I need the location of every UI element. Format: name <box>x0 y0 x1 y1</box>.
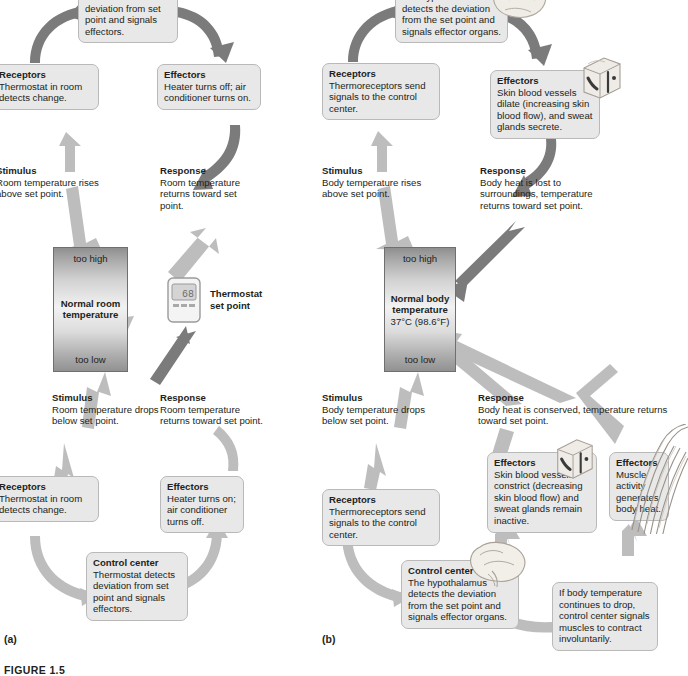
panel-a-upper-response-label: Response Room temperature returns toward… <box>160 165 250 211</box>
panel-a-normal-temp-line2: temperature <box>63 310 118 321</box>
panel-b-upper-stimulus-head: Stimulus <box>322 165 434 177</box>
panel-a-upper-response-body: Room temperature returns toward set poin… <box>160 177 250 212</box>
arrow-b-up-response-to-box <box>455 221 525 288</box>
panel-a-upper-cc-body: Thermostat detects deviation from set po… <box>85 0 171 37</box>
panel-a-lower-stimulus-body: Room temperature drops below set point. <box>52 404 162 427</box>
arrow-a-low-effectors-to-response-body <box>213 426 238 471</box>
figure-caption: FIGURE 1.5 <box>4 664 65 676</box>
panel-a-lower-effectors-head: Effectors <box>167 481 237 493</box>
panel-a-lower-stimulus-head: Stimulus <box>52 392 162 404</box>
panel-b-too-high-label: too high <box>385 253 455 265</box>
thermostat-set-point-label: Thermostat set point <box>210 288 262 311</box>
panel-b-lower-stimulus-body: Body temperature drops below set point. <box>322 404 437 427</box>
panel-b-lower-receptors-head: Receptors <box>329 494 433 506</box>
panel-a-upper-response-head: Response <box>160 165 250 177</box>
panel-b-normal-temp-line1: Normal body <box>391 292 450 303</box>
panel-b-setpoint-column: too high Normal body temperature 37°C (9… <box>384 247 456 372</box>
panel-b-upper-cc-body: The hypothalamus detects the deviation f… <box>402 0 501 37</box>
panel-a-too-low-label: too low <box>54 354 127 366</box>
panel-a-lower-receptors-head: Receptors <box>0 481 92 493</box>
skin-block-icon <box>552 436 596 482</box>
panel-b-upper-response-body: Body heat is lost to surroundings, tempe… <box>480 177 610 212</box>
thermostat-label-line1: Thermostat <box>210 288 262 299</box>
panel-a-upper-effectors-box: Effectors Heater turns off; air conditio… <box>157 64 261 110</box>
panel-b-normal-temp-label: Normal body temperature 37°C (98.6°F) <box>385 292 455 327</box>
arrow-a-up-response-to-box <box>168 228 219 282</box>
panel-b-normal-temp-line2: temperature <box>392 304 447 315</box>
panel-a-lower-receptors-body: Thermostat in room detects change. <box>0 493 92 516</box>
panel-a-letter: (a) <box>4 633 17 645</box>
panel-a-lower-control-center-box: Control center Thermostat detects deviat… <box>86 552 188 621</box>
panel-a-lower-cc-head: Control center <box>93 557 181 569</box>
panel-b-normal-temp-value: 37°C (98.6°F) <box>385 315 455 327</box>
panel-b-shivering-note-box: If body temperature continues to drop, c… <box>552 582 658 651</box>
panel-a-upper-effectors-body: Heater turns off; air conditioner turns … <box>164 81 254 104</box>
panel-b-upper-receptors-body: Thermoreceptors send signals to the cont… <box>329 80 433 115</box>
panel-a-upper-stimulus-head: Stimulus <box>0 165 106 177</box>
panel-b-upper-receptors-box: Receptors Thermoreceptors send signals t… <box>322 63 440 120</box>
muscle-fiber-icon <box>628 424 688 534</box>
panel-b-shivering-note-body: If body temperature continues to drop, c… <box>559 587 651 645</box>
panel-a-upper-stimulus-label: Stimulus Room temperature rises above se… <box>0 165 106 200</box>
panel-a-upper-receptors-box: Receptors Thermostat in room detects cha… <box>0 64 99 110</box>
panel-a-upper-control-center-box: Thermostat detects deviation from set po… <box>78 0 178 43</box>
panel-b-upper-response-head: Response <box>480 165 610 177</box>
panel-b-too-low-label: too low <box>385 354 455 366</box>
panel-a-lower-response-label: Response Room temperature returns toward… <box>160 392 272 427</box>
panel-b-lower-stimulus-label: Stimulus Body temperature drops below se… <box>322 392 437 427</box>
panel-a-upper-receptors-head: Receptors <box>0 69 92 81</box>
panel-b-lower-receptors-body: Thermoreceptors send signals to the cont… <box>329 506 433 541</box>
panel-b-upper-response-label: Response Body heat is lost to surroundin… <box>480 165 610 211</box>
panel-a-lower-effectors-body: Heater turns on; air conditioner turns o… <box>167 493 237 528</box>
panel-b-upper-stimulus-body: Body temperature rises above set point. <box>322 177 434 200</box>
skin-block-icon <box>578 54 624 102</box>
panel-a-normal-temp-line1: Normal room <box>61 298 121 309</box>
panel-a-too-high-label: too high <box>54 253 127 265</box>
arrow-a-low-response-to-box <box>150 326 196 385</box>
panel-a-lower-cc-body: Thermostat detects deviation from set po… <box>93 569 181 615</box>
panel-a-lower-response-body: Room temperature returns toward set poin… <box>160 404 272 427</box>
panel-a-lower-effectors-box: Effectors Heater turns on; air condition… <box>160 476 244 533</box>
brain-icon <box>489 0 551 22</box>
panel-a-upper-receptors-body: Thermostat in room detects change. <box>0 81 92 104</box>
panel-b-lower-response-label: Response Body heat is conserved, tempera… <box>478 392 684 427</box>
thermostat-label-line2: set point <box>210 300 250 311</box>
panel-a-lower-stimulus-label: Stimulus Room temperature drops below se… <box>52 392 162 427</box>
thermostat-display-value: 68 <box>182 289 194 300</box>
panel-a-setpoint-column: too high Normal room temperature too low <box>53 247 128 372</box>
panel-a-lower-response-head: Response <box>160 392 272 404</box>
panel-a-lower-receptors-box: Receptors Thermostat in room detects cha… <box>0 476 99 522</box>
panel-a-upper-effectors-head: Effectors <box>164 69 254 81</box>
brain-icon <box>466 541 530 591</box>
panel-b-letter: (b) <box>322 633 335 645</box>
arrow-b-low-to-receptors <box>364 443 386 490</box>
thermostat-icon: 68 <box>166 276 202 324</box>
panel-b-lower-stimulus-head: Stimulus <box>322 392 437 404</box>
panel-b-upper-receptors-head: Receptors <box>329 68 433 80</box>
panel-b-lower-receptors-box: Receptors Thermoreceptors send signals t… <box>322 489 440 546</box>
panel-b-lower-response-head: Response <box>478 392 684 404</box>
panel-b-upper-stimulus-label: Stimulus Body temperature rises above se… <box>322 165 434 200</box>
panel-a-normal-temp-label: Normal room temperature <box>54 298 127 321</box>
panel-a-upper-stimulus-body: Room temperature rises above set point. <box>0 177 106 200</box>
